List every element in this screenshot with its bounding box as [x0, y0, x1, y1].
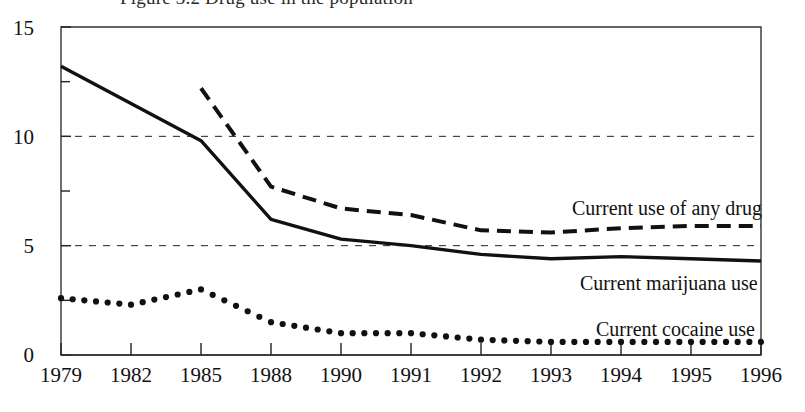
axis-ticks	[61, 27, 761, 355]
gridlines	[61, 136, 761, 245]
series-line-any-drug	[201, 88, 761, 232]
chart-plot-area	[0, 0, 805, 412]
series-dots-cocaine	[58, 286, 764, 345]
axis-frame	[61, 27, 761, 355]
chart-container: Figure 3.2 Drug use in the population 15…	[0, 0, 805, 412]
series-line-marijuana	[61, 66, 761, 261]
